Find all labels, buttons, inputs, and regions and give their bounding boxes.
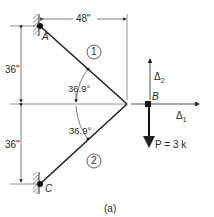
node-a bbox=[37, 23, 43, 29]
member-2 bbox=[40, 104, 127, 184]
node-c bbox=[37, 181, 43, 187]
displacement-2-label: Δ2 bbox=[154, 72, 165, 84]
dimension-lower-vertical-label: 36" bbox=[5, 140, 20, 150]
angle-lower-label: 36.9° bbox=[69, 126, 91, 136]
figure-caption: (a) bbox=[104, 204, 116, 214]
truss-diagram bbox=[0, 0, 214, 217]
node-b bbox=[145, 101, 151, 107]
member-2-label: 2 bbox=[91, 156, 97, 166]
node-c-label: C bbox=[45, 184, 52, 194]
displacement-1-label: Δ1 bbox=[176, 111, 187, 123]
node-b-label: B bbox=[152, 92, 159, 102]
dimension-upper-vertical-label: 36" bbox=[5, 65, 20, 75]
dimension-horizontal-label: 48" bbox=[76, 14, 91, 24]
load-label: P = 3 k bbox=[155, 140, 186, 150]
node-a-label: A bbox=[42, 32, 49, 42]
angle-upper-label: 36.9° bbox=[68, 84, 90, 94]
member-1-label: 1 bbox=[91, 47, 97, 57]
